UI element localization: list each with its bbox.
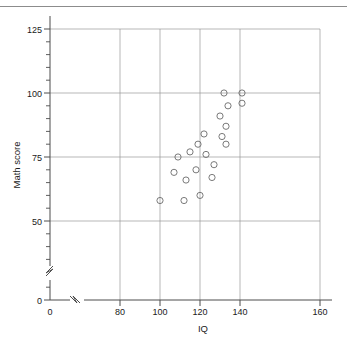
x-tick-label: 80	[115, 307, 125, 317]
data-point	[219, 133, 225, 139]
x-axis	[50, 296, 332, 306]
chart-canvas: 125 100 75 50 0 0 80 100 120 140 160 IQ …	[0, 0, 347, 339]
data-point	[209, 174, 215, 180]
data-points-group	[157, 90, 245, 204]
x-tick-label: 0	[47, 307, 52, 317]
y-tick-label: 75	[32, 153, 42, 163]
y-tick-label: 50	[32, 217, 42, 227]
data-point	[223, 123, 229, 129]
x-axis-title: IQ	[198, 323, 208, 334]
data-point	[225, 103, 231, 109]
x-tick-labels: 0 80 100 120 140 160	[47, 307, 327, 317]
data-point	[181, 197, 187, 203]
data-point	[223, 141, 229, 147]
scatter-plot-figure: 125 100 75 50 0 0 80 100 120 140 160 IQ …	[0, 0, 347, 339]
data-point	[171, 169, 177, 175]
x-tick-label: 120	[192, 307, 207, 317]
data-point	[193, 167, 199, 173]
x-tick-label: 160	[312, 307, 327, 317]
data-point	[211, 162, 217, 168]
data-point	[183, 177, 189, 183]
vertical-gridlines	[120, 29, 320, 300]
x-tick-label: 140	[232, 307, 247, 317]
data-point	[203, 151, 209, 157]
y-tick-label: 100	[27, 89, 42, 99]
y-tick-label: 125	[27, 25, 42, 35]
data-point	[187, 149, 193, 155]
data-point	[201, 131, 207, 137]
y-axis-title: Math score	[11, 142, 22, 189]
data-point	[217, 113, 223, 119]
y-axis	[44, 16, 53, 300]
horizontal-gridlines	[50, 29, 320, 221]
y-tick-label: 0	[37, 296, 42, 306]
y-tick-labels: 125 100 75 50 0	[27, 25, 42, 306]
x-tick-label: 100	[152, 307, 167, 317]
